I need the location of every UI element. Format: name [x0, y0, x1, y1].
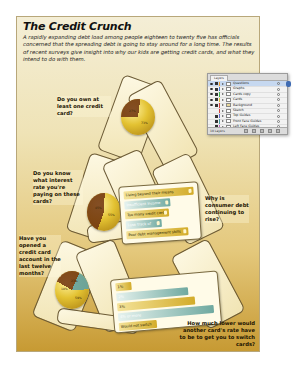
- layer-thumbnail: [226, 92, 231, 96]
- lock-icon[interactable]: [215, 82, 218, 85]
- question-debt-rise: Why is consumer debt continuing to rise?: [205, 195, 249, 223]
- bar-label: 3%: [119, 305, 125, 309]
- pie-label: 73%: [141, 121, 148, 125]
- layer-thumbnail: [226, 82, 231, 86]
- bar-tab: [165, 200, 168, 204]
- bar-item: Would not switch: [119, 320, 158, 331]
- pie-label: 18%: [61, 287, 68, 291]
- layer-thumbnail: [226, 98, 231, 102]
- target-icon[interactable]: [277, 88, 280, 91]
- layer-color: [219, 87, 220, 92]
- layer-count: 10 Layers: [210, 128, 225, 134]
- pie-label: 27%: [129, 109, 136, 113]
- bar-label: Would not switch: [121, 322, 152, 329]
- layer-thumbnail: [226, 103, 231, 107]
- layer-color: [219, 98, 220, 103]
- layer-thumbnail: [226, 87, 231, 91]
- expand-icon[interactable]: [222, 120, 224, 122]
- lock-icon[interactable]: [215, 98, 218, 101]
- bar-tab: [157, 221, 160, 225]
- poster-title: The Credit Crunch: [23, 20, 131, 33]
- layer-color: [219, 109, 220, 114]
- target-icon[interactable]: [277, 93, 280, 96]
- question-own-card: Do you own at least one credit card?: [57, 96, 111, 117]
- bar-tab: [183, 229, 186, 233]
- target-icon[interactable]: [277, 104, 280, 107]
- lock-icon[interactable]: [215, 104, 218, 107]
- pie-slice: [87, 193, 121, 231]
- eye-icon[interactable]: [210, 104, 213, 106]
- chart-debt-rise: Living beyond their means Insufficient i…: [118, 181, 202, 244]
- bar-label: Living beyond their means: [126, 190, 174, 197]
- pie-slice: [121, 99, 155, 135]
- expand-icon[interactable]: [222, 83, 224, 85]
- delete-layer-button[interactable]: [276, 129, 280, 133]
- question-interest-rate: Do you know what interest rate you're pa…: [33, 170, 83, 205]
- layers-panel-footer: 10 Layers: [208, 127, 287, 134]
- pie-interest-rate: 45% 55%: [87, 193, 121, 231]
- eye-icon[interactable]: [210, 88, 213, 90]
- eye-icon[interactable]: [210, 93, 213, 95]
- target-icon[interactable]: [277, 98, 280, 101]
- expand-icon[interactable]: [222, 99, 224, 101]
- eye-icon[interactable]: [210, 99, 213, 101]
- pie-label: 45%: [95, 206, 102, 210]
- bar-item: Living beyond their means: [123, 187, 193, 200]
- eye-icon[interactable]: [210, 83, 213, 85]
- bar-item: Lose track of charges: [126, 219, 162, 229]
- expand-icon[interactable]: [222, 88, 224, 90]
- target-icon[interactable]: [277, 120, 280, 123]
- make-clipping-mask-button[interactable]: [252, 129, 256, 133]
- layer-color: [219, 114, 220, 119]
- new-layer-button[interactable]: [268, 129, 272, 133]
- layers-panel-header[interactable]: Layers: [208, 74, 287, 81]
- layers-panel[interactable]: Layers Questions Graphs Cards copy Cards…: [207, 73, 288, 135]
- selection-indicator-icon[interactable]: [286, 81, 291, 87]
- layer-thumbnail: [226, 109, 231, 113]
- layer-thumbnail: [226, 119, 231, 123]
- bar-label: Too many credit cards: [127, 211, 167, 218]
- expand-icon[interactable]: [222, 93, 224, 95]
- target-icon[interactable]: [277, 82, 280, 85]
- bar-label: 4% or more: [120, 313, 141, 319]
- layer-color: [219, 92, 220, 97]
- expand-icon[interactable]: [222, 104, 224, 106]
- layer-thumbnail: [226, 114, 231, 118]
- bar-item: 1%: [115, 282, 132, 291]
- pie-label: 59%: [75, 296, 82, 300]
- poster-intro: A rapidly expanding debt load among peop…: [23, 34, 255, 63]
- bar-label: Insufficient income: [126, 201, 160, 207]
- pie-label: 23%: [71, 279, 78, 283]
- lock-icon[interactable]: [215, 93, 218, 96]
- bar-label: 1%: [117, 285, 123, 289]
- layer-color: [219, 103, 220, 108]
- question-opened-account: Have you opened a credit card account in…: [19, 235, 61, 277]
- layer-color: [219, 82, 220, 87]
- bar-label: 2%: [118, 295, 124, 299]
- bar-tab: [188, 189, 191, 193]
- bar-item: Too many credit cards: [125, 208, 169, 219]
- layer-color: [219, 119, 220, 124]
- lock-icon[interactable]: [215, 120, 218, 123]
- pie-own-card: 27% 73%: [121, 99, 155, 135]
- new-sublayer-button[interactable]: [260, 129, 264, 133]
- expand-icon[interactable]: [222, 115, 224, 117]
- lock-icon[interactable]: [215, 88, 218, 91]
- question-switch-cards: How much lower would another card's rate…: [177, 320, 255, 348]
- poster-artboard: The Credit Crunch A rapidly expanding de…: [16, 16, 260, 352]
- pie-label: 55%: [108, 213, 115, 217]
- target-icon[interactable]: [277, 109, 280, 112]
- bar-label: Poor debt management skills: [128, 230, 181, 238]
- target-icon[interactable]: [277, 115, 280, 118]
- locate-object-button[interactable]: [244, 129, 248, 133]
- expand-icon[interactable]: [222, 110, 224, 112]
- bar-tab: [164, 211, 167, 215]
- lock-icon[interactable]: [215, 115, 218, 118]
